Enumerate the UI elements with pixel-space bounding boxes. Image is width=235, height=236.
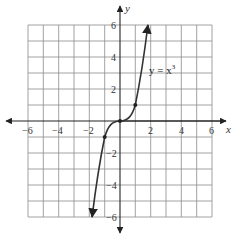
y-tick-label: 4: [111, 52, 116, 63]
y-tick-label: −2: [106, 148, 117, 159]
equation-exponent: 3: [172, 63, 176, 71]
y-tick-label: 2: [111, 84, 116, 95]
x-tick-label: 4: [179, 125, 184, 136]
x-tick-label: −2: [83, 125, 94, 136]
y-tick-label: −4: [106, 180, 117, 191]
point-origin: [118, 119, 122, 123]
x-tick-label: −6: [22, 125, 33, 136]
x-tick-label: 6: [209, 125, 214, 136]
equation-base: y = x: [149, 64, 172, 76]
cubic-graph: y x −6 −4 −2 2 4 6 6 4 2 −2 −4 −6 y = x3: [0, 0, 235, 236]
y-axis-label: y: [124, 2, 130, 14]
x-tick-label: −4: [52, 125, 63, 136]
x-tick-label: 2: [148, 125, 153, 136]
x-axis-label: x: [225, 123, 231, 135]
point-1-1: [133, 103, 137, 107]
y-tick-label: −6: [106, 212, 117, 223]
equation-label: y = x3: [149, 63, 176, 76]
y-tick-label: 6: [111, 20, 116, 31]
point-neg1-neg1: [103, 135, 107, 139]
